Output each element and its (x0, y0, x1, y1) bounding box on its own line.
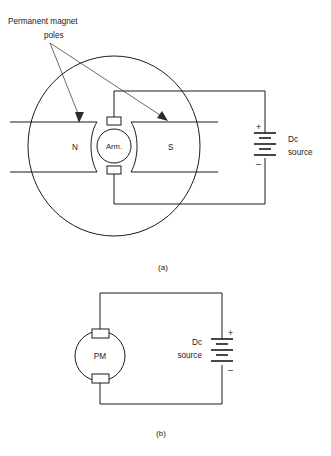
pm-brush-top (92, 329, 109, 338)
panel-a-group: Permanent magnet poles N S Arm. + – Dc s… (8, 17, 313, 272)
panel-b-group: PM + – Dc source (b) (75, 293, 233, 438)
pm-motor-label: PM (94, 352, 106, 361)
panel-b-caption: (b) (156, 429, 166, 438)
battery-b-plus-sign: + (228, 328, 233, 338)
circuit-b-upper-wire (100, 293, 222, 339)
south-pole-label: S (168, 143, 174, 152)
north-pole-piece (10, 122, 97, 172)
armature-brush-top (107, 117, 121, 125)
figure-container: Permanent magnet poles N S Arm. + – Dc s… (0, 0, 331, 456)
battery-a-plus-sign: + (256, 122, 261, 132)
leader-arrowhead-south (157, 111, 168, 121)
pm-brush-bottom (92, 374, 109, 383)
annotation-line-1: Permanent magnet (8, 17, 78, 26)
leader-line-north (50, 43, 79, 116)
source-b-label-line-1: Dc (192, 338, 202, 347)
annotation-line-2: poles (44, 31, 64, 40)
source-a-label-line-1: Dc (288, 135, 298, 144)
armature-positive-wire (114, 91, 265, 133)
armature-brush-bottom (107, 166, 121, 174)
source-b-label-line-2: source (177, 351, 202, 360)
armature-negative-wire (114, 158, 265, 204)
armature-label: Arm. (106, 142, 122, 151)
leader-line-south (50, 43, 163, 117)
south-pole-piece (131, 122, 218, 172)
north-pole-label: N (72, 143, 78, 152)
battery-a-minus-sign: – (256, 159, 261, 169)
source-a-label-line-2: source (288, 148, 313, 157)
battery-b-minus-sign: – (228, 365, 233, 375)
panel-a-caption: (a) (158, 263, 168, 272)
motor-diagram-svg: Permanent magnet poles N S Arm. + – Dc s… (0, 0, 331, 456)
leader-arrowhead-north (75, 112, 84, 123)
